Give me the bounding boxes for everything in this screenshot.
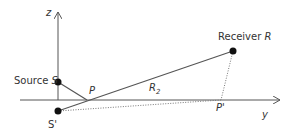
- source-label-prefix: Source: [14, 75, 48, 86]
- projection-point-label: P': [216, 103, 225, 113]
- receiver-to-projection-dotted: [221, 51, 233, 100]
- image-source-label: S': [48, 120, 57, 130]
- image-ray-r2: [58, 51, 233, 111]
- source-label: Source S: [14, 76, 58, 86]
- receiver-label: Receiver R: [218, 32, 271, 42]
- y-axis-label: y: [262, 110, 268, 120]
- receiver-label-symbol: R: [264, 31, 271, 42]
- image-to-projection-dotted: [58, 100, 221, 111]
- source-label-symbol: S: [52, 75, 58, 86]
- diagram: z y Source S S' P Receiver R P' R2: [0, 0, 290, 136]
- r2-label: R2: [149, 83, 160, 96]
- receiver-point: [230, 48, 237, 55]
- incident-ray: [58, 82, 87, 100]
- diagram-canvas: [0, 0, 290, 136]
- r2-label-main: R: [149, 82, 156, 93]
- reflection-point-label: P: [89, 86, 95, 96]
- z-axis-label: z: [46, 8, 51, 18]
- r2-label-subscript: 2: [156, 88, 160, 96]
- image-source-point: [55, 108, 62, 115]
- receiver-label-prefix: Receiver: [218, 31, 261, 42]
